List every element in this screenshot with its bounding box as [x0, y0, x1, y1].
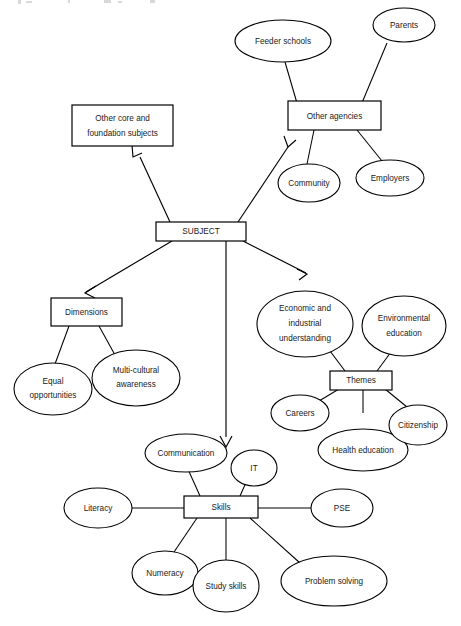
edge-themes-citizenship: [385, 389, 407, 407]
node-equal-opportunities-label-line1: Equal: [43, 377, 64, 386]
edge-themes-economic: [330, 351, 345, 371]
node-other-core-label-line1: Other core and: [95, 114, 150, 123]
node-communication-label: Communication: [158, 449, 215, 458]
node-equal-opportunities-label-line2: opportunities: [30, 391, 77, 400]
node-economic-label-line3: understanding: [279, 334, 331, 343]
node-it-label: IT: [250, 464, 257, 473]
scan-artifact-top: [18, 0, 155, 4]
node-pse[interactable]: PSE: [311, 489, 373, 527]
node-problem-solving[interactable]: Problem solving: [281, 556, 387, 606]
node-literacy-label: Literacy: [84, 504, 114, 513]
edge-other-agencies-employers: [357, 130, 382, 161]
node-numeracy-label: Numeracy: [146, 569, 184, 578]
node-subject-label: SUBJECT: [182, 227, 219, 236]
node-it[interactable]: IT: [231, 450, 277, 486]
node-pse-label: PSE: [334, 504, 351, 513]
node-other-core-and-foundation-subjects[interactable]: Other core and foundation subjects: [72, 105, 173, 146]
node-careers[interactable]: Careers: [271, 395, 329, 431]
edge-skills-problem-solving: [250, 518, 300, 563]
arrowhead-other-core: [132, 145, 142, 157]
node-citizenship-label: Citizenship: [398, 421, 438, 430]
edge-skills-numeracy: [172, 518, 197, 555]
node-dimensions[interactable]: Dimensions: [51, 298, 122, 326]
node-other-agencies[interactable]: Other agencies: [288, 101, 381, 130]
node-community[interactable]: Community: [278, 164, 340, 202]
node-communication[interactable]: Communication: [145, 434, 227, 472]
node-other-core-label-line2: foundation subjects: [87, 129, 158, 138]
node-literacy[interactable]: Literacy: [64, 488, 132, 528]
node-numeracy[interactable]: Numeracy: [132, 551, 198, 595]
edge-dimensions-multi-cultural: [99, 326, 115, 355]
node-employers-label: Employers: [371, 174, 410, 183]
node-themes[interactable]: Themes: [330, 371, 392, 390]
node-multi-cultural-label-line1: Multi-cultural: [113, 366, 160, 375]
node-parents-label: Parents: [390, 21, 418, 30]
node-environmental-label-line2: education: [386, 329, 422, 338]
node-environmental-label-line1: Environmental: [378, 314, 431, 323]
node-environmental-education[interactable]: Environmental education: [362, 296, 446, 356]
edge-dimensions-equal-opportunities: [55, 326, 69, 364]
node-parents[interactable]: Parents: [373, 8, 435, 42]
edge-other-agencies-community: [307, 130, 314, 164]
node-careers-label: Careers: [285, 409, 314, 418]
node-multi-cultural-awareness[interactable]: Multi-cultural awareness: [92, 350, 180, 406]
node-economic-label-line1: Economic and: [279, 304, 331, 313]
node-feeder-schools[interactable]: Feeder schools: [235, 20, 331, 62]
node-skills[interactable]: Skills: [184, 496, 258, 518]
edge-themes-environmental: [377, 352, 391, 371]
node-community-label: Community: [288, 179, 330, 188]
node-study-skills[interactable]: Study skills: [193, 560, 259, 612]
node-themes-label: Themes: [346, 376, 376, 385]
node-multi-cultural-label-line2: awareness: [116, 380, 156, 389]
edge-subject-dimensions: [86, 241, 172, 292]
concept-map-canvas: Other core and foundation subjects Other…: [0, 0, 461, 626]
node-skills-label: Skills: [211, 503, 230, 512]
node-employers[interactable]: Employers: [356, 160, 424, 196]
node-problem-solving-label: Problem solving: [305, 577, 364, 586]
node-other-agencies-label: Other agencies: [307, 112, 363, 121]
node-study-skills-label: Study skills: [206, 582, 247, 591]
node-subject[interactable]: SUBJECT: [156, 222, 246, 241]
arrowhead-dimensions: [85, 286, 96, 298]
arrowhead-other-agencies: [284, 136, 296, 147]
edge-other-agencies-parents: [359, 43, 387, 110]
node-feeder-schools-label: Feeder schools: [255, 37, 311, 46]
node-economic-label-line2: industrial: [289, 319, 322, 328]
node-health-education-label: Health education: [332, 446, 394, 455]
concept-map-diagram: Other core and foundation subjects Other…: [0, 0, 461, 626]
node-dimensions-label: Dimensions: [65, 308, 108, 317]
node-equal-opportunities[interactable]: Equal opportunities: [14, 363, 92, 415]
node-economic-and-industrial-understanding[interactable]: Economic and industrial understanding: [257, 291, 353, 357]
node-citizenship[interactable]: Citizenship: [389, 405, 447, 445]
edge-subject-other-core: [140, 157, 170, 222]
edge-subject-themes: [243, 241, 306, 273]
